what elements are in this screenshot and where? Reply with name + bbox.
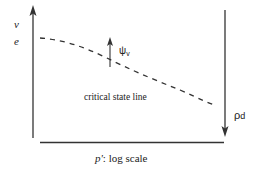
- rho-d-label: ρd: [234, 109, 245, 121]
- critical-state-diagram: v e ψv critical state line ρd p': log sc…: [0, 0, 261, 173]
- x-axis-label: p': log scale: [94, 152, 148, 164]
- y-axis-label-e: e: [14, 35, 19, 47]
- psi-v-label: ψv: [119, 45, 130, 57]
- critical-state-line-label: critical state line: [84, 92, 147, 102]
- y-axis-label-v: v: [14, 18, 19, 30]
- rho-d-arrow: [222, 10, 229, 137]
- y-axis: [30, 5, 37, 138]
- psi-v-arrow: [107, 37, 113, 67]
